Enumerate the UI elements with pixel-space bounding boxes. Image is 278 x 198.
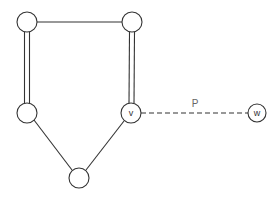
edge-v-d	[86, 121, 124, 170]
node-top-right	[122, 12, 142, 32]
node-mid-left	[17, 103, 37, 123]
node-top-left	[17, 12, 37, 32]
path-label: P	[192, 98, 199, 109]
graph-diagram: v w P	[0, 0, 278, 198]
node-v-label: v	[129, 108, 134, 118]
edge-a-c-double	[25, 32, 30, 103]
edge-b-v-double	[129, 32, 135, 103]
node-bottom	[69, 168, 89, 188]
edge-c-d	[34, 120, 72, 170]
node-w-label: w	[253, 108, 261, 118]
